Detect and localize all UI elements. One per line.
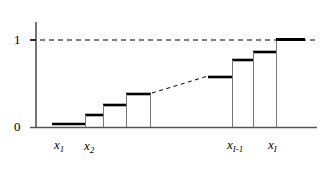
x-tick-label-x1: x1 [54, 138, 64, 151]
x-tick-sub-x1: 1 [60, 144, 65, 154]
x-tick-base-x1: x [54, 137, 60, 152]
x-tick-base-x2: x [84, 138, 90, 153]
x-tick-sub-x2: 2 [90, 145, 95, 155]
ellipsis-connector-dashed-line [152, 76, 208, 93]
x-tick-base-xI: x [268, 137, 274, 152]
x-tick-label-xI-1: xI-1 [227, 138, 243, 151]
x-tick-label-x2: x2 [84, 139, 94, 152]
cdf-figure: 1 0 x1 x2 xI-1 xI [0, 0, 324, 169]
y-tick-label-one: 1 [14, 33, 21, 46]
x-tick-label-xI: xI [268, 138, 277, 151]
x-tick-sub-xI-1: I-1 [233, 144, 244, 154]
y-tick-label-zero: 0 [14, 120, 21, 133]
x-tick-sub-xI: I [274, 144, 277, 154]
x-tick-base-xI-1: x [227, 137, 233, 152]
